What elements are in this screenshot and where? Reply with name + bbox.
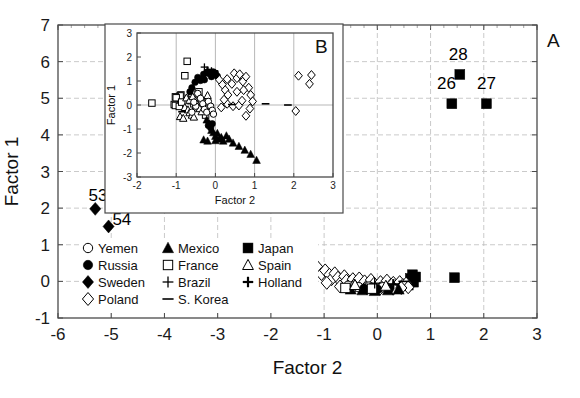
x-tick-label: -1 <box>317 325 332 344</box>
legend-label: Mexico <box>178 241 219 256</box>
panel-a-y-axis-title: Factor 1 <box>1 137 22 207</box>
inset-x-tick-label: 2 <box>291 180 297 191</box>
x-tick-label: -5 <box>104 325 119 344</box>
point-annotation: 28 <box>449 45 468 64</box>
panel-b-y-axis-title: Factor 1 <box>105 85 117 125</box>
y-tick-label: 5 <box>41 89 50 108</box>
panel-b-letter: B <box>315 36 328 57</box>
inset-x-tick-label: 1 <box>252 180 258 191</box>
inset-y-tick-label: -1 <box>123 124 132 135</box>
y-tick-label: 1 <box>41 236 50 255</box>
x-tick-label: -6 <box>50 325 65 344</box>
legend-label: Japan <box>258 241 293 256</box>
x-tick-label: 1 <box>426 325 435 344</box>
legend-label: Russia <box>98 258 139 273</box>
y-tick-label: 2 <box>41 199 50 218</box>
panel-b-x-axis-title: Factor 2 <box>215 194 255 206</box>
y-tick-label: 3 <box>41 163 50 182</box>
inset-y-tick-label: -2 <box>123 148 132 159</box>
x-tick-label: 2 <box>479 325 488 344</box>
inset-x-tick-label: -2 <box>133 180 142 191</box>
inset-y-tick-label: 3 <box>126 28 132 39</box>
legend-label: Yemen <box>98 241 138 256</box>
legend: YemenRussiaSwedenPolandMexicoFranceBrazi… <box>80 239 318 313</box>
inset-series-japan <box>206 69 218 77</box>
point-annotation: 27 <box>477 74 496 93</box>
x-tick-label: 0 <box>373 325 382 344</box>
inset-x-tick-label: -1 <box>172 180 181 191</box>
inset-y-tick-label: 2 <box>126 52 132 63</box>
scatter-figure: -6-5-4-3-2-10123 -101234567 5354282627 F… <box>0 0 580 398</box>
x-tick-label: -3 <box>210 325 225 344</box>
legend-label: S. Korea <box>178 292 229 307</box>
point-annotation: 26 <box>437 74 456 93</box>
inset-y-tick-label: 0 <box>126 100 132 111</box>
legend-label: France <box>178 258 218 273</box>
inset-y-tick-label: -3 <box>123 172 132 183</box>
panel-a-x-axis-title: Factor 2 <box>273 357 343 378</box>
y-tick-label: 4 <box>41 126 50 145</box>
panel-a-letter: A <box>547 30 560 51</box>
legend-label: Poland <box>98 292 138 307</box>
panel-a-y-ticklabels: -101234567 <box>35 16 50 328</box>
inset-x-tick-label: 0 <box>213 180 219 191</box>
x-tick-label: -2 <box>263 325 278 344</box>
panel-a-x-ticklabels: -6-5-4-3-2-10123 <box>50 325 541 344</box>
y-tick-label: -1 <box>35 309 50 328</box>
legend-label: Spain <box>258 258 291 273</box>
x-tick-label: 3 <box>532 325 541 344</box>
y-tick-label: 7 <box>41 16 50 35</box>
inset-x-tick-label: 3 <box>330 180 336 191</box>
series-japan <box>403 69 491 289</box>
legend-label: Holland <box>258 275 302 290</box>
y-tick-label: 0 <box>41 272 50 291</box>
figure-root: -6-5-4-3-2-10123 -101234567 5354282627 F… <box>0 0 580 398</box>
legend-label: Brazil <box>178 275 211 290</box>
x-tick-label: -4 <box>157 325 172 344</box>
inset-y-tick-label: 1 <box>126 76 132 87</box>
legend-label: Sweden <box>98 275 145 290</box>
y-tick-label: 6 <box>41 53 50 72</box>
